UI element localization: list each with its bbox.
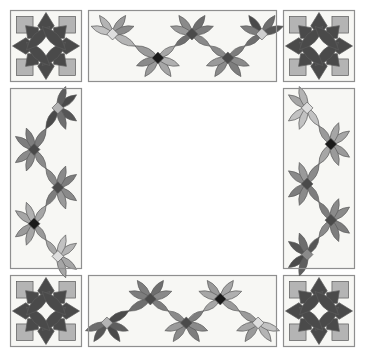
border-right-wrap <box>283 86 355 275</box>
border-left-wrap <box>10 86 82 277</box>
border-left[interactable] <box>10 86 82 277</box>
border-right[interactable] <box>283 86 355 275</box>
quilt-diagram <box>0 0 365 357</box>
corner-bottom-left-frame-wrap <box>10 275 82 347</box>
border-top[interactable] <box>88 10 283 82</box>
corner-top-right-frame-wrap <box>283 10 355 82</box>
corner-top-left[interactable] <box>10 10 82 82</box>
corner-bottom-right-frame-wrap <box>283 275 355 347</box>
corner-top-right[interactable] <box>283 10 355 82</box>
border-bottom[interactable] <box>85 275 279 347</box>
corner-top-left-frame-wrap <box>10 10 82 82</box>
border-top-frame-wrap <box>88 10 283 82</box>
border-bottom-frame-wrap <box>85 275 279 347</box>
quilt-canvas <box>0 0 365 357</box>
corner-bottom-left[interactable] <box>10 275 82 347</box>
corner-bottom-right[interactable] <box>283 275 355 347</box>
